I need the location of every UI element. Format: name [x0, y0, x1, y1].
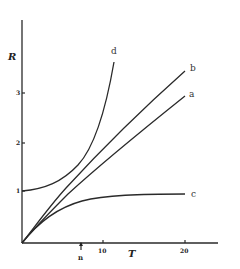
chart-plot: 3 2 1 10 20 R T n d b a c: [0, 0, 240, 269]
curve-label-b: b: [190, 63, 196, 73]
curve-c: [22, 194, 185, 243]
n-marker-label: n: [78, 253, 83, 262]
x-tick-label-20: 20: [180, 247, 188, 254]
curve-b: [22, 71, 185, 243]
y-tick-label-1: 1: [16, 187, 20, 194]
x-axis-title: T: [128, 248, 137, 259]
y-axis-title: R: [7, 51, 16, 62]
x-tick-label-10: 10: [98, 247, 106, 254]
y-tick-label-3: 3: [16, 89, 20, 96]
y-tick-label-2: 2: [16, 139, 20, 146]
curve-label-a: a: [189, 89, 195, 99]
curve-a: [22, 96, 185, 243]
curve-label-d: d: [111, 46, 117, 56]
curve-label-c: c: [191, 189, 196, 199]
curve-d: [22, 62, 114, 191]
